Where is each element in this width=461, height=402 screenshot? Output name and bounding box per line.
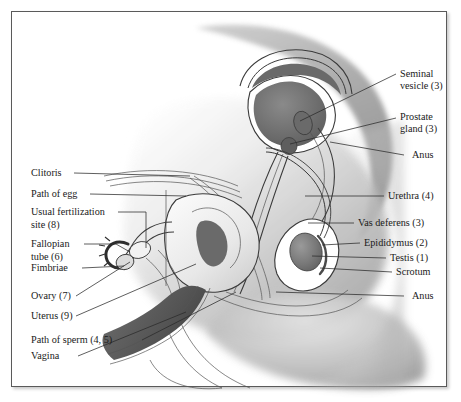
label-epididymus: Epididymus (2) — [364, 237, 428, 249]
label-clitoris: Clitoris — [31, 167, 62, 178]
label-path-of-egg: Path of egg — [31, 188, 77, 199]
label-prostate-gland-line1: Prostate — [400, 111, 433, 122]
label-anus-lower: Anus — [412, 290, 434, 301]
label-scrotum: Scrotum — [396, 266, 431, 277]
label-vas-deferens: Vas deferens (3) — [358, 217, 424, 229]
label-uterus: Uterus (9) — [31, 310, 73, 322]
label-path-of-sperm: Path of sperm (4, 5) — [31, 334, 112, 346]
left-label-group: Clitoris Path of egg Usual fertilization… — [31, 167, 112, 361]
label-fallopian-tube-line1: Fallopian — [31, 238, 69, 249]
label-vagina: Vagina — [31, 350, 60, 361]
anatomy-diagram: Seminal vesicle (3) Prostate gland (3) A… — [0, 0, 461, 402]
label-fertilization-site-line1: Usual fertilization — [31, 206, 105, 217]
label-seminal-vesicle-line2: vesicle (3) — [400, 80, 443, 92]
label-fimbriae: Fimbriae — [31, 262, 68, 273]
prostate-gland-organ — [281, 138, 297, 155]
label-ovary: Ovary (7) — [31, 290, 71, 302]
label-anus-upper: Anus — [412, 149, 434, 160]
label-testis: Testis (1) — [390, 252, 428, 264]
label-seminal-vesicle-line1: Seminal — [400, 68, 434, 79]
anatomy-figure: Seminal vesicle (3) Prostate gland (3) A… — [0, 0, 461, 402]
label-urethra: Urethra (4) — [388, 190, 434, 202]
label-prostate-gland-line2: gland (3) — [400, 123, 437, 135]
label-fertilization-site-line2: site (8) — [31, 219, 60, 231]
